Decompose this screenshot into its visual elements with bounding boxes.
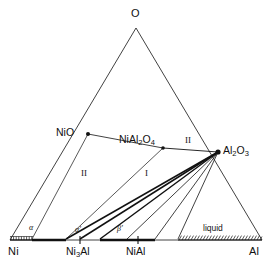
region-label-two-upper: II — [185, 136, 191, 145]
point-marker-NiAl2O4 — [161, 146, 165, 150]
tie-line-group — [32, 134, 218, 239]
region-label-alpha-prime: α' — [75, 226, 81, 234]
compound-label-NiO: NiO — [56, 127, 74, 138]
region-label-two-lower: II — [81, 169, 87, 178]
hatch-liquid-field — [178, 236, 262, 240]
baseline-label-NiAl: NiAl — [126, 246, 145, 257]
tie-line-NiAl2O4-Al2O3 — [163, 148, 218, 152]
point-marker-NiO — [86, 132, 90, 136]
region-label-liquid: liquid — [203, 224, 223, 233]
triangle-edge-O-Al — [136, 28, 262, 240]
hatch-alpha-solid-solution — [10, 237, 33, 241]
corner-label-Ni: Ni — [8, 246, 19, 257]
corner-label-Al: Al — [249, 246, 259, 257]
ternary-phase-diagram-figure: O Ni Al NiO NiAl2O4 Al2O3 Ni3Al NiAl α α… — [0, 0, 272, 266]
tie-line-NiO-alpha — [32, 134, 88, 239]
compound-label-NiAl2O4: NiAl2O4 — [119, 134, 155, 147]
tie-line-Al2O3-alphaprime-left — [66, 152, 218, 239]
tie-line-Al2O3-Ni3Al — [80, 152, 218, 239]
compound-label-Al2O3: Al2O3 — [223, 145, 249, 158]
region-label-alpha: α — [29, 224, 33, 232]
baseline-label-Ni3Al: Ni3Al — [66, 246, 89, 259]
region-label-beta-prime: β' — [117, 225, 123, 233]
point-marker-Al2O3 — [215, 149, 220, 154]
region-label-one: I — [145, 169, 148, 178]
corner-label-O: O — [131, 8, 140, 19]
